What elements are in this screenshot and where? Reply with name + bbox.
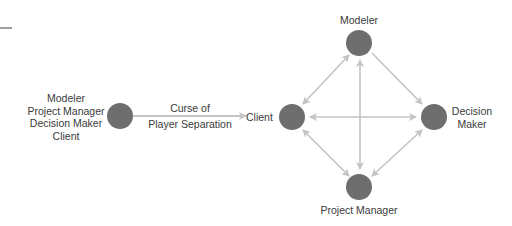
arrow-label-line2: Player Separation bbox=[138, 118, 242, 131]
label-maker: Maker bbox=[449, 118, 495, 131]
left-label-decision-maker: Decision Maker bbox=[20, 117, 112, 130]
left-label-project-manager: Project Manager bbox=[20, 105, 112, 118]
label-project-manager: Project Manager bbox=[309, 204, 409, 217]
node-decision-maker bbox=[421, 104, 447, 130]
label-modeler: Modeler bbox=[329, 14, 389, 27]
edge-decision-pm bbox=[372, 130, 422, 176]
left-label-client: Client bbox=[20, 130, 112, 143]
node-modeler bbox=[346, 30, 372, 56]
node-project-manager bbox=[346, 174, 372, 200]
left-label-modeler: Modeler bbox=[20, 92, 112, 105]
node-client bbox=[279, 104, 305, 130]
edge-client-pm bbox=[303, 130, 349, 176]
edge-modeler-decision bbox=[372, 53, 422, 104]
label-decision: Decision bbox=[449, 105, 495, 118]
label-client: Client bbox=[246, 111, 276, 124]
edge-client-modeler bbox=[303, 55, 349, 104]
label-decision-maker: Decision Maker bbox=[449, 105, 495, 130]
left-group-labels: Modeler Project Manager Decision Maker C… bbox=[20, 92, 112, 142]
arrow-label-line1: Curse of bbox=[145, 102, 235, 115]
